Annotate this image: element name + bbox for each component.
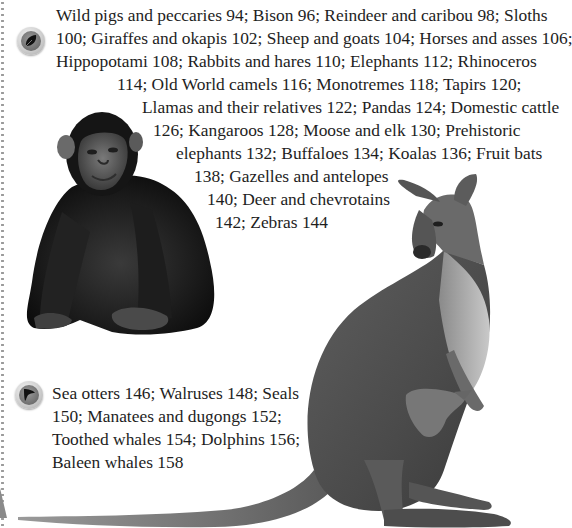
contents-line: Llamas and their relatives 122; Pandas 1…	[56, 96, 572, 119]
contents-line: Wild pigs and peccaries 94; Bison 96; Re…	[56, 4, 572, 27]
contents-line: 140; Deer and chevrotains	[56, 188, 572, 211]
page-corner-tab	[0, 488, 7, 518]
contents-line: Hippopotami 108; Rabbits and hares 110; …	[56, 50, 572, 73]
contents-line: Sea otters 146; Walruses 148; Seals	[52, 382, 300, 405]
land-mammals-contents: Wild pigs and peccaries 94; Bison 96; Re…	[56, 4, 572, 234]
contents-line: Toothed whales 154; Dolphins 156;	[52, 428, 300, 451]
contents-line: 100; Giraffes and okapis 102; Sheep and …	[56, 27, 572, 50]
land-mammals-badge	[17, 27, 45, 55]
sea-mammals-badge	[15, 381, 43, 409]
sea-mammals-contents: Sea otters 146; Walruses 148; Seals 150;…	[52, 382, 300, 474]
dolphin-fin-icon	[19, 385, 39, 405]
contents-line: 142; Zebras 144	[56, 211, 572, 234]
contents-line: elephants 132; Buffaloes 134; Koalas 136…	[56, 142, 572, 165]
leaf-icon	[21, 31, 41, 51]
page-edge-perforation	[0, 0, 5, 528]
contents-line: 150; Manatees and dugongs 152;	[52, 405, 300, 428]
contents-line: 126; Kangaroos 128; Moose and elk 130; P…	[56, 119, 572, 142]
contents-line: Baleen whales 158	[52, 451, 300, 474]
contents-line: 138; Gazelles and antelopes	[56, 165, 572, 188]
contents-line: 114; Old World camels 116; Monotremes 11…	[56, 73, 572, 96]
